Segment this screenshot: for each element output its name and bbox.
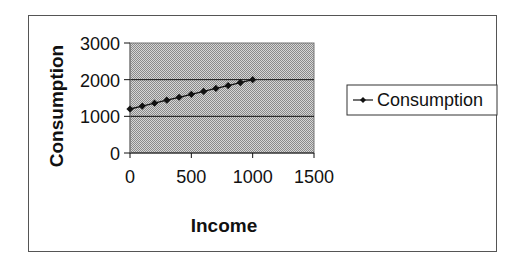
plot-area (130, 43, 314, 153)
x-tick-label: 0 (125, 167, 135, 187)
x-tick-label: 1500 (294, 167, 334, 187)
y-tick-label: 2000 (80, 71, 120, 91)
line-chart: 0100020003000050010001500 Consumption In… (0, 0, 523, 267)
legend: Consumption (347, 85, 497, 115)
y-tick-label: 0 (110, 144, 120, 164)
x-axis-title: Income (191, 215, 258, 236)
y-tick-label: 1000 (80, 107, 120, 127)
y-axis-title: Consumption (46, 45, 67, 167)
x-tick-label: 1000 (233, 167, 273, 187)
legend-label: Consumption (377, 90, 483, 110)
y-tick-label: 3000 (80, 34, 120, 54)
x-tick-label: 500 (176, 167, 206, 187)
